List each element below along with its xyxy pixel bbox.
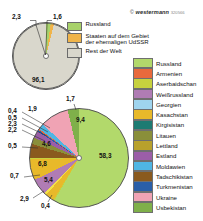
legend-top-label-udssr: Staaten auf dem Gebiet der ehemaligen Ud… [86,33,149,47]
legend-swatch-tadschikistan [133,171,153,182]
legend-top-label-rest: Rest der Welt [86,48,122,55]
pie-top-value-russland: 2,3 [12,14,21,20]
legend-swatch-moldawien [133,161,153,172]
copyright-notice: © westermann 320566 [130,9,185,15]
pie-bottom-value-0-5b: 0,5 [8,143,17,149]
pie-bottom-value-2-2: 2,2 [8,127,17,133]
catalog-number: 320566 [171,10,185,15]
chart-figure: © westermann 320566 2,3 1,6 96,1 Russlan… [0,0,203,221]
legend-label-litauen: Litauen [156,132,176,139]
legend-label-ukraine: Ukraine [156,194,177,201]
pie-bottom-value-58-3: 58,3 [99,153,111,159]
legend-swatch-litauen [133,130,153,141]
legend-item-georgien[interactable]: Georgien [133,99,196,109]
legend-item-armenien[interactable]: Armenien [133,68,196,78]
pie-bottom-value-4-6: 4,6 [42,141,51,147]
legend-top: Russland Staaten auf dem Gebiet der ehem… [67,21,149,59]
legend-swatch-aserbaidschan [133,78,153,89]
legend-label-moldawien: Moldawien [156,163,185,170]
pie-top-value-rest: 96,1 [32,77,44,83]
legend-top-label-udssr-line2: der ehemaligen UdSSR [86,39,149,46]
legend-item-usbekistan[interactable]: Usbekistan [133,202,196,212]
publisher-name: westermann [135,9,169,15]
legend-label-kasachstan: Kasachstan [156,111,188,118]
legend-label-usbekistan: Usbekistan [156,204,186,211]
legend-swatch-estland [133,151,153,162]
pie-bottom-value-1-9: 1,9 [28,106,37,112]
legend-top-item-russland[interactable]: Russland [67,21,149,31]
legend-label-georgien: Georgien [156,101,181,108]
legend-swatch-russland [67,22,82,32]
legend-item-kirgisistan[interactable]: Kirgisistan [133,120,196,130]
legend-label-armenien: Armenien [156,70,182,77]
legend-label-tadschikistan: Tadschikistan [156,173,193,180]
legend-label-aserbaidschan: Aserbaidschan [156,80,196,87]
legend-item-weissrussland[interactable]: Weißrussland [133,89,196,99]
legend-swatch-kasachstan [133,109,153,120]
legend-label-weissrussland: Weißrussland [156,91,193,98]
legend-top-item-rest[interactable]: Rest der Welt [67,48,149,58]
pie-bottom-value-0-4b: 0,4 [41,203,50,209]
legend-swatch-usbekistan [133,202,153,213]
legend-item-litauen[interactable]: Litauen [133,130,196,140]
legend-swatch-kirgisistan [133,120,153,131]
pie-bottom-value-1-7: 1,7 [66,96,75,102]
legend-item-moldawien[interactable]: Moldawien [133,161,196,171]
pie-bottom-value-0-7: 0,7 [10,173,19,179]
legend-top-label-udssr-line1: Staaten auf dem Gebiet [86,33,149,40]
legend-swatch-lettland [133,140,153,151]
legend-top-label-russland: Russland [86,21,111,28]
pie-bottom-value-9-4: 9,4 [76,117,85,123]
legend-swatch-rest [67,48,82,58]
pie-top-value-udssr: 1,6 [53,14,62,20]
copyright-symbol: © [130,9,134,15]
legend-item-russland[interactable]: Russland [133,58,196,68]
legend-item-ukraine[interactable]: Ukraine [133,192,196,202]
legend-label-russland: Russland [156,60,181,67]
pie-center-hub [43,53,49,59]
legend-swatch-georgien [133,99,153,110]
pie-bottom-value-2-9: 2,9 [20,196,29,202]
legend-swatch-ukraine [133,192,153,203]
legend-item-estland[interactable]: Estland [133,151,196,161]
pie-center-hub-bottom [76,155,82,161]
pie-bottom-value-6-8: 6,8 [38,161,47,167]
legend-top-item-udssr[interactable]: Staaten auf dem Gebiet der ehemaligen Ud… [67,33,149,47]
legend-item-lettland[interactable]: Lettland [133,140,196,150]
pie-bottom-value-5-4: 5,4 [44,177,53,183]
legend-swatch-udssr [67,33,82,43]
legend-label-estland: Estland [156,152,176,159]
legend-swatch-armenien [133,68,153,79]
legend-label-turkmenistan: Turkmenistan [156,183,193,190]
legend-item-aserbaidschan[interactable]: Aserbaidschan [133,79,196,89]
legend-item-kasachstan[interactable]: Kasachstan [133,109,196,119]
legend-right: Russland Armenien Aserbaidschan Weißruss… [133,58,196,212]
legend-swatch-turkmenistan [133,181,153,192]
legend-swatch-weissrussland [133,89,153,100]
legend-item-turkmenistan[interactable]: Turkmenistan [133,182,196,192]
legend-label-lettland: Lettland [156,142,178,149]
legend-label-kirgisistan: Kirgisistan [156,121,184,128]
legend-swatch-russland-2 [133,58,153,69]
legend-item-tadschikistan[interactable]: Tadschikistan [133,171,196,181]
